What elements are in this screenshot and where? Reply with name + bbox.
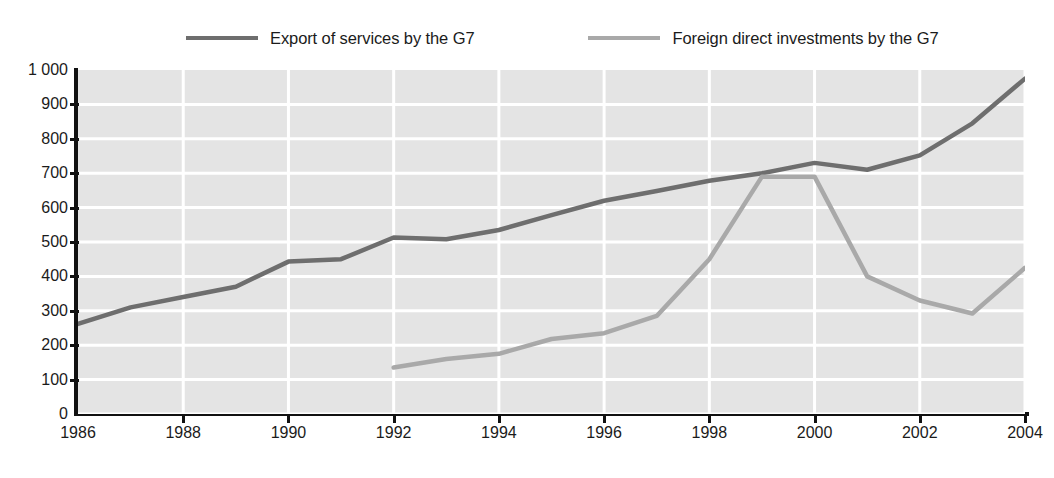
y-axis-tick-mark bbox=[70, 103, 79, 106]
y-axis-tick-label: 0 bbox=[2, 406, 68, 422]
y-axis-tick-mark bbox=[70, 138, 79, 141]
y-axis-tick-label: 400 bbox=[2, 268, 68, 284]
x-axis-tick-label: 1986 bbox=[38, 424, 118, 442]
x-axis-tick-mark bbox=[603, 414, 606, 423]
legend-entry-fdi: Foreign direct investments by the G7 bbox=[588, 29, 938, 48]
y-axis-tick-label: 800 bbox=[2, 131, 68, 147]
x-axis-tick-mark bbox=[814, 414, 817, 423]
chart-container: Export of services by the G7 Foreign dir… bbox=[0, 0, 1054, 478]
x-axis-tick-mark bbox=[287, 414, 290, 423]
y-axis-tick-mark bbox=[70, 172, 79, 175]
x-axis-tick-mark bbox=[919, 414, 922, 423]
y-axis-tick-label: 600 bbox=[2, 200, 68, 216]
line-swatch-icon bbox=[186, 36, 258, 40]
legend-label-export: Export of services by the G7 bbox=[270, 29, 474, 48]
x-axis-tick-mark bbox=[498, 414, 501, 423]
x-axis-tick-mark bbox=[393, 414, 396, 423]
y-axis-tick-label: 100 bbox=[2, 372, 68, 388]
y-axis-tick-mark bbox=[70, 310, 79, 313]
legend-label-fdi: Foreign direct investments by the G7 bbox=[672, 29, 938, 48]
chart-legend: Export of services by the G7 Foreign dir… bbox=[0, 22, 1054, 54]
x-axis-tick-label: 1990 bbox=[248, 424, 328, 442]
x-axis-tick-label: 2002 bbox=[880, 424, 960, 442]
x-axis-tick-label: 1988 bbox=[143, 424, 223, 442]
x-axis-tick-label: 2000 bbox=[775, 424, 855, 442]
y-axis-tick-label: 700 bbox=[2, 165, 68, 181]
plot-area bbox=[78, 70, 1025, 414]
y-axis-tick-mark bbox=[70, 275, 79, 278]
y-axis-tick-mark bbox=[70, 379, 79, 382]
y-axis: 1 0009008007006005004003002001000 bbox=[0, 0, 68, 478]
y-axis-tick-label: 900 bbox=[2, 96, 68, 112]
y-axis-tick-mark bbox=[70, 207, 79, 210]
x-axis-tick-mark bbox=[182, 414, 185, 423]
y-axis-tick-label: 300 bbox=[2, 303, 68, 319]
x-axis-tick-mark bbox=[708, 414, 711, 423]
x-axis-tick-label: 1996 bbox=[564, 424, 644, 442]
series-line-0 bbox=[78, 79, 1025, 324]
y-axis-tick-label: 500 bbox=[2, 234, 68, 250]
y-axis-tick-label: 1 000 bbox=[2, 62, 68, 78]
x-axis-tick-label: 1994 bbox=[459, 424, 539, 442]
plot-svg bbox=[78, 70, 1025, 414]
y-axis-tick-mark bbox=[70, 344, 79, 347]
x-axis-tick-label: 1998 bbox=[669, 424, 749, 442]
line-swatch-icon bbox=[588, 36, 660, 40]
legend-entry-export: Export of services by the G7 bbox=[186, 29, 474, 48]
x-axis-tick-mark bbox=[1024, 414, 1027, 423]
y-axis-tick-mark bbox=[70, 241, 79, 244]
x-axis-tick-label: 2004 bbox=[985, 424, 1054, 442]
y-axis-tick-label: 200 bbox=[2, 337, 68, 353]
x-axis-tick-label: 1992 bbox=[354, 424, 434, 442]
